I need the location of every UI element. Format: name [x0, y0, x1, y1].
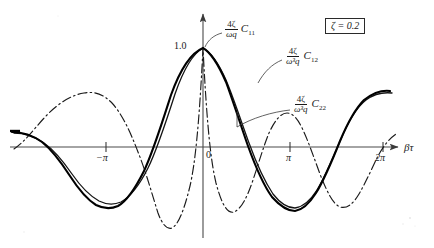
parameter-text: ζ = 0.2 [331, 20, 359, 31]
y-value-label: 1.0 [174, 40, 187, 51]
parameter-box: ζ = 0.2 [325, 18, 365, 34]
curve-label-c22: 4ζ ω³q C22 [292, 95, 326, 115]
leader-lines [205, 33, 290, 127]
fraction-denominator: ω³q [284, 57, 302, 66]
x-tick-label-neg-pi: −π [96, 152, 108, 163]
symbol-subscript: 11 [248, 29, 255, 37]
x-tick-label-zero: 0 [206, 149, 211, 160]
x-tick-label-pi: π [286, 152, 291, 163]
figure-canvas: ζ = 0.2 1.0 βτ −π 0 π 2π 4ζ ωq C11 4ζ ω³… [0, 0, 434, 248]
symbol-base: C [312, 97, 319, 109]
fraction-c11: 4ζ ωq [224, 20, 239, 40]
curve-label-c12: 4ζ ω³q C12 [284, 47, 318, 67]
x-axis-label: βτ [404, 141, 413, 153]
symbol-subscript: 12 [311, 56, 318, 64]
scan-noise [23, 15, 415, 232]
fraction-c22: 4ζ ω³q [292, 95, 310, 115]
curve-c12 [14, 48, 396, 228]
plot-svg [0, 0, 434, 248]
curve-c11 [10, 48, 390, 211]
x-tick-label-2pi: 2π [375, 152, 385, 163]
fraction-denominator: ωq [224, 30, 239, 39]
symbol-base: C [304, 49, 311, 61]
curve-symbol-c22: C22 [312, 98, 326, 112]
curve-label-c11: 4ζ ωq C11 [224, 20, 255, 40]
curve-symbol-c11: C11 [241, 23, 255, 37]
symbol-subscript: 22 [319, 104, 326, 112]
fraction-c12: 4ζ ω³q [284, 47, 302, 67]
curve-symbol-c12: C12 [304, 50, 318, 64]
fraction-denominator: ω³q [292, 105, 310, 114]
